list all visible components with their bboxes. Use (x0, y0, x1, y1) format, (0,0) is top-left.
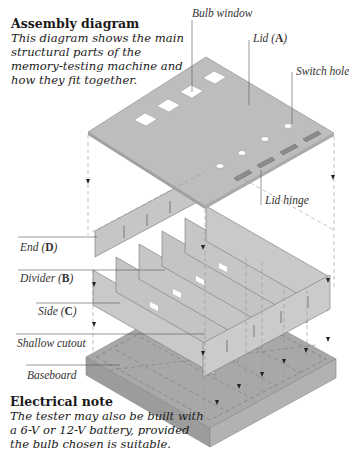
label-end-letter: D (45, 241, 53, 253)
down-arrow-icon (86, 179, 90, 184)
label-lid: Lid (A) (253, 32, 287, 44)
label-lid-close: ) (283, 32, 287, 44)
assembly-caption: Assembly diagram This diagram shows the … (11, 16, 186, 87)
electrical-caption-title: Electrical note (10, 394, 210, 409)
switch-hole (238, 151, 246, 156)
label-divider-letter: B (62, 272, 70, 284)
down-arrow-icon (92, 322, 96, 327)
label-side-close: ) (73, 305, 77, 317)
electrical-caption-body: The tester may also be built with a 6-V … (10, 409, 210, 451)
label-lid-hinge: Lid hinge (265, 194, 309, 206)
down-arrow-icon (326, 337, 330, 342)
label-side-letter: C (65, 305, 73, 317)
label-lid-text: Lid ( (253, 32, 275, 44)
label-divider: Divider (B) (20, 272, 73, 284)
label-end: End (D) (20, 241, 57, 253)
label-side: Side (C) (38, 305, 77, 317)
switch-hole (261, 137, 269, 142)
label-divider-close: ) (70, 272, 74, 284)
label-divider-text: Divider ( (20, 272, 62, 284)
assembly-caption-body: This diagram shows the main structural p… (11, 31, 186, 87)
down-arrow-icon (331, 175, 335, 180)
label-side-text: Side ( (38, 305, 65, 317)
label-switch-hole: Switch hole (296, 65, 349, 77)
switch-hole (284, 124, 292, 129)
label-bulb-window: Bulb window (192, 7, 252, 19)
label-baseboard: Baseboard (27, 369, 76, 381)
label-end-close: ) (54, 241, 58, 253)
assembly-caption-title: Assembly diagram (11, 16, 186, 31)
label-shallow-cutout: Shallow cutout (17, 337, 86, 349)
switch-hole (216, 164, 224, 169)
electrical-caption: Electrical note The tester may also be b… (10, 394, 210, 451)
label-end-text: End ( (20, 241, 45, 253)
